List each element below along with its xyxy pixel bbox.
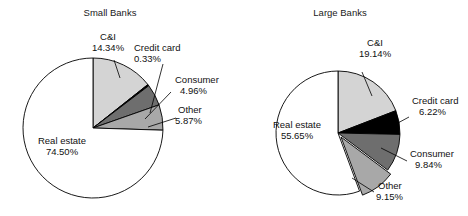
label-credit-name-small: Credit card	[134, 42, 180, 53]
label-ci-name-large: C&I	[367, 37, 383, 48]
label-consumer-value-small: 4.96%	[180, 85, 207, 96]
label-ci-name-small: C&I	[100, 31, 116, 42]
label-credit-value-large: 6.22%	[419, 106, 446, 117]
label-credit-name-large: Credit card	[412, 95, 458, 106]
label-consumer-value-large: 9.84%	[415, 159, 442, 170]
label-ci-value-large: 19.14%	[359, 48, 392, 59]
label-consumer-name-large: Consumer	[410, 148, 454, 159]
label-real-estate-name-large: Real estate	[273, 119, 321, 130]
label-other-name-small: Other	[178, 104, 202, 115]
label-real-estate-value-large: 55.65%	[281, 130, 314, 141]
label-real-estate-name-small: Real estate	[38, 135, 86, 146]
label-other-value-small: 5.87%	[175, 115, 202, 126]
chart-title-large-banks: Large Banks	[313, 7, 367, 18]
label-other-name-large: Other	[378, 180, 402, 191]
label-consumer-name-small: Consumer	[175, 74, 219, 85]
pie-chart-pair: Small Banks C&I 14.34% Credit card 0.33%…	[0, 0, 468, 216]
label-credit-value-small: 0.33%	[134, 53, 161, 64]
label-ci-value-small: 14.34%	[92, 42, 125, 53]
pie-slices-small-banks	[23, 58, 163, 198]
chart-large-banks: Large Banks C&I 19.14% Credit card 6.22%…	[273, 7, 459, 202]
chart-title-small-banks: Small Banks	[84, 7, 137, 18]
label-other-value-large: 9.15%	[376, 191, 403, 202]
chart-small-banks: Small Banks C&I 14.34% Credit card 0.33%…	[23, 7, 219, 198]
label-real-estate-value-small: 74.50%	[46, 146, 79, 157]
